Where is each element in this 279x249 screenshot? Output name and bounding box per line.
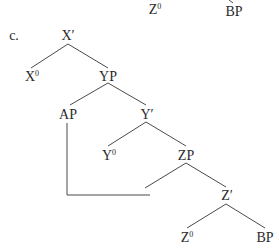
branch-zbar-zhead [187,204,226,228]
branch-zp-trace [145,163,186,188]
syntax-tree-diagram: Z0 BP c. X′ X0 YP AP Y′ Y0 ZP Z′ Z0 BP [0,0,279,249]
tree-branches [0,0,279,249]
branch-xbar-yp [68,44,108,68]
node-x-head: X0 [25,70,39,84]
node-z-head: Z0 [181,231,194,245]
node-y-bar: Y′ [140,108,153,122]
fragment-branch-right [229,0,233,3]
example-label: c. [9,29,19,43]
node-ap: AP [59,108,77,122]
branch-yp-ap [70,83,108,105]
branch-xbar-xhead [31,44,68,68]
node-bp: BP [256,231,273,245]
branch-yp-ybar [108,83,146,105]
node-x-bar: X′ [61,29,74,43]
fragment-leaf-z-head: Z0 [149,3,162,17]
node-yp: YP [99,70,117,84]
branch-zbar-bp [226,204,265,228]
branch-ybar-yhead [108,122,146,146]
branch-zp-zbar [186,163,226,187]
node-zp: ZP [178,149,194,163]
fragment-leaf-bp: BP [225,5,242,19]
branch-ybar-zp [146,122,186,146]
node-z-bar: Z′ [221,189,233,203]
node-y-head: Y0 [102,149,116,163]
